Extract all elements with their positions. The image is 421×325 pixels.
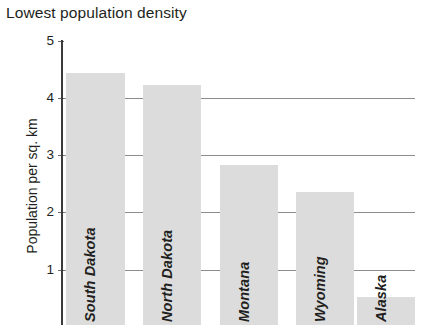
chart-figure: Lowest population density Population per… (0, 0, 421, 325)
bar-label-alaska: Alaska (373, 275, 389, 322)
bar-label-south-dakota: South Dakota (82, 227, 98, 322)
bar-label-montana: Montana (236, 262, 252, 322)
plot-area: 5 4 3 2 1 South Dakota North Dakota Mont… (0, 0, 421, 325)
y-tick-label-2: 2 (26, 205, 54, 219)
y-axis-line (61, 40, 63, 325)
y-tick-label-1: 1 (26, 263, 54, 277)
y-tick-label-5: 5 (26, 34, 54, 48)
y-tick-label-3: 3 (26, 148, 54, 162)
bar-label-wyoming: Wyoming (312, 256, 328, 322)
y-tick-label-4: 4 (26, 91, 54, 105)
bar-label-north-dakota: North Dakota (159, 230, 175, 322)
